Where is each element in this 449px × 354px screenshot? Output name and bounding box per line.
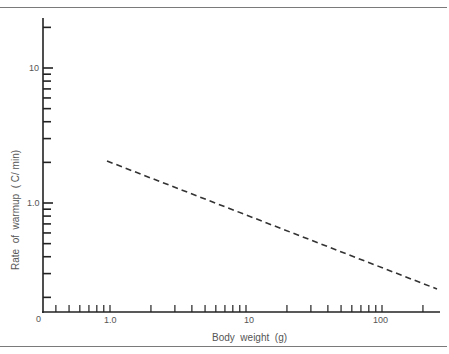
y-tick-label-1: 1.0 — [27, 198, 40, 208]
y-axis-ticks — [43, 27, 53, 297]
origin-label: 0 — [36, 314, 41, 324]
y-axis-title: Rate of warmup ( C/ min) — [10, 150, 21, 270]
x-tick-label-10: 10 — [244, 315, 254, 325]
x-tick-label-1: 1.0 — [104, 315, 117, 325]
x-tick-label-100: 100 — [373, 315, 388, 325]
y-tick-label-10: 10 — [29, 63, 39, 73]
x-axis-title: Body weight (g) — [212, 332, 287, 343]
chart: 10 1.0 0 1.0 10 100 Body weight (g) Rate… — [0, 0, 449, 354]
dashed-trend-line — [107, 161, 437, 289]
x-axis-ticks — [56, 305, 423, 312]
